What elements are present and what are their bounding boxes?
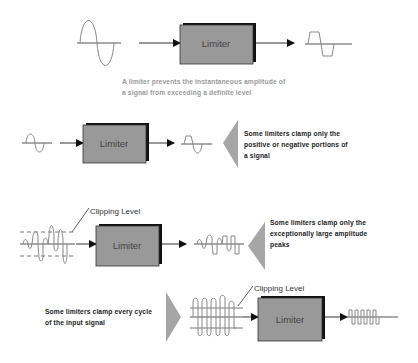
example2-caption: Some limiters clamp only the exceptional… <box>270 217 367 250</box>
example1-caption-line2: positive or negative portions of <box>244 139 348 150</box>
example3-pointer-triangle <box>166 292 181 342</box>
example2-clipping-level-leader <box>72 208 89 232</box>
main-caption-line1: A limiter prevents the instantaneous amp… <box>122 76 285 87</box>
example3-clipping-level-label: Clipping Level <box>254 284 304 293</box>
example3-limiter-block: Limiter <box>258 296 325 341</box>
example2-clipping-level-label: Clipping Level <box>90 207 140 216</box>
example1-caption-line3: a signal <box>244 150 348 161</box>
main-caption: A limiter prevents the instantaneous amp… <box>122 76 285 98</box>
example1-output-half-clipped-wave <box>181 136 212 153</box>
example1-limiter-block: Limiter <box>83 123 149 163</box>
example3-output-square-wave <box>346 310 398 324</box>
example3-limiter-label: Limiter <box>276 314 305 325</box>
main-limiter-block: Limiter <box>180 23 256 64</box>
example1-limiter-label: Limiter <box>100 138 129 149</box>
main-input-sine-wave <box>77 21 121 66</box>
example2-caption-line1: Some limiters clamp only the <box>270 217 367 228</box>
example3-clipping-level-leader <box>238 286 253 306</box>
example3-caption: Some limiters clamp every cycle of the i… <box>45 306 152 328</box>
example3-input-large-wave <box>190 295 243 336</box>
example3-caption-line1: Some limiters clamp every cycle <box>45 306 152 317</box>
example2-pointer-triangle <box>248 222 265 270</box>
main-caption-line2: a signal from exceeding a definite level <box>122 87 285 98</box>
main-limiter-label: Limiter <box>202 38 231 49</box>
example1-caption: Some limiters clamp only the positive or… <box>244 128 348 161</box>
example1-pointer-triangle <box>223 120 238 168</box>
main-output-clipped-wave <box>305 32 352 56</box>
example2-caption-line3: peaks <box>270 239 367 250</box>
example2-limiter-label: Limiter <box>113 240 142 251</box>
example2-limiter-block: Limiter <box>96 224 162 266</box>
example2-input-variable-wave <box>20 226 75 264</box>
example2-caption-line2: exceptionally large amplitude <box>270 228 367 239</box>
example1-input-sine-wave <box>22 134 52 152</box>
example3-caption-line2: of the input signal <box>45 317 152 328</box>
example2-output-peak-clipped-wave <box>194 235 244 254</box>
example1-caption-line1: Some limiters clamp only the <box>244 128 348 139</box>
